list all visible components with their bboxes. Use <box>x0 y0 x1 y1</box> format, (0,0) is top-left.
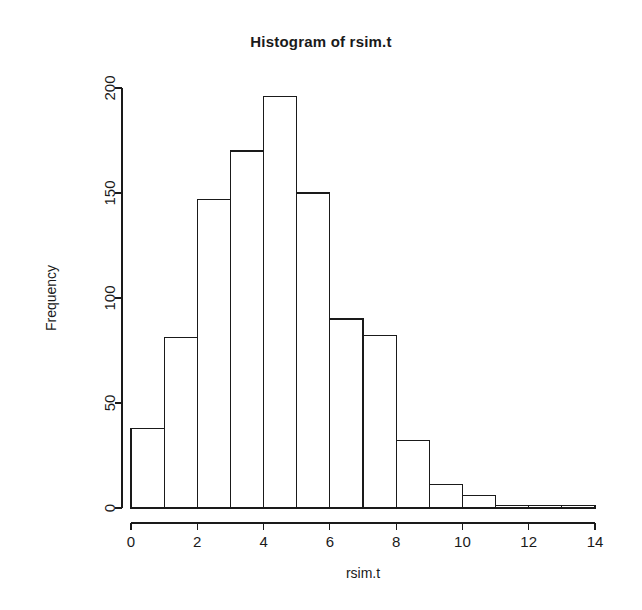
y-axis: 050100150200 <box>101 75 123 512</box>
x-axis-tick-label: 8 <box>392 533 400 550</box>
histogram-bar <box>396 441 429 508</box>
x-axis-tick-label: 6 <box>326 533 334 550</box>
y-axis-tick-label: 200 <box>101 75 118 100</box>
x-axis: 02468101214 <box>127 523 604 550</box>
histogram-bar <box>330 319 363 508</box>
histogram-bar <box>230 151 263 508</box>
histogram-bar <box>197 199 230 508</box>
x-axis-tick-label: 2 <box>193 533 201 550</box>
x-axis-tick-label: 4 <box>259 533 267 550</box>
histogram-bars <box>131 96 595 508</box>
x-axis-tick-label: 0 <box>127 533 135 550</box>
histogram-bar <box>496 506 529 508</box>
histogram-bar <box>562 506 595 508</box>
y-axis-tick-label: 150 <box>101 180 118 205</box>
x-axis-tick-label: 14 <box>587 533 604 550</box>
plot-canvas: 05010015020002468101214rsim.tFrequency <box>0 0 642 610</box>
x-axis-tick-label: 12 <box>520 533 537 550</box>
histogram-bar <box>462 495 495 508</box>
y-axis-tick-label: 0 <box>101 504 118 512</box>
histogram-bar <box>363 336 396 508</box>
y-axis-tick-label: 100 <box>101 285 118 310</box>
y-axis-tick-label: 50 <box>101 395 118 412</box>
histogram-plot: Histogram of rsim.t 05010015020002468101… <box>0 0 642 610</box>
histogram-bar <box>164 338 197 508</box>
histogram-bar <box>297 193 330 508</box>
histogram-bar <box>529 506 562 508</box>
histogram-bar <box>264 96 297 508</box>
histogram-bar <box>429 485 462 508</box>
x-axis-tick-label: 10 <box>454 533 471 550</box>
histogram-bar <box>131 428 164 508</box>
y-axis-title: Frequency <box>43 265 59 331</box>
x-axis-title: rsim.t <box>346 565 380 581</box>
